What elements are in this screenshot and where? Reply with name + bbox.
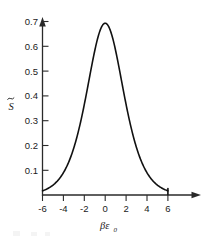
y-axis-ticks bbox=[43, 22, 49, 171]
y-tick-label-0.6: 0.6 bbox=[25, 41, 38, 52]
y-axis-title: S bbox=[7, 98, 14, 112]
y-axis-title-text: S bbox=[8, 101, 14, 112]
x-axis-title-subscript: 0 bbox=[114, 226, 118, 234]
figure-container: 0.7 0.6 0.5 0.4 0.3 0.2 0.1 S bbox=[0, 0, 219, 239]
y-axis-title-tilde-accent bbox=[7, 98, 14, 100]
entropy-curve bbox=[43, 23, 168, 191]
x-axis-title-text: βε bbox=[99, 220, 110, 231]
scan-artifact-3 bbox=[45, 232, 50, 236]
x-tick-label-2: 2 bbox=[123, 203, 128, 214]
x-tick-label-0: 0 bbox=[103, 203, 108, 214]
x-tick-label--4: -4 bbox=[59, 203, 67, 214]
scan-artifact-1 bbox=[13, 231, 20, 236]
y-tick-label-0.2: 0.2 bbox=[25, 140, 38, 151]
x-tick-label--6: -6 bbox=[38, 203, 46, 214]
data-curve-group bbox=[43, 23, 168, 194]
x-tick-label--2: -2 bbox=[80, 203, 88, 214]
y-tick-label-0.4: 0.4 bbox=[25, 90, 38, 101]
y-axis-group: 0.7 0.6 0.5 0.4 0.3 0.2 0.1 S bbox=[7, 16, 48, 196]
x-axis-title: βε 0 bbox=[99, 220, 118, 234]
x-axis-tick-labels: -6 -4 -2 0 2 4 6 bbox=[38, 203, 170, 214]
y-axis-tick-labels: 0.7 0.6 0.5 0.4 0.3 0.2 0.1 bbox=[25, 16, 38, 176]
x-axis-arrowhead bbox=[192, 192, 202, 199]
y-tick-label-0.1: 0.1 bbox=[25, 165, 38, 176]
x-axis-ticks bbox=[43, 195, 168, 201]
x-tick-label-4: 4 bbox=[144, 203, 149, 214]
x-tick-label-6: 6 bbox=[165, 203, 170, 214]
x-axis-group: -6 -4 -2 0 2 4 6 βε 0 bbox=[38, 192, 201, 234]
entropy-plot: 0.7 0.6 0.5 0.4 0.3 0.2 0.1 S bbox=[0, 0, 219, 239]
scan-artifact-2 bbox=[31, 232, 37, 236]
y-tick-label-0.7: 0.7 bbox=[25, 16, 38, 27]
y-tick-label-0.3: 0.3 bbox=[25, 115, 38, 126]
y-tick-label-0.5: 0.5 bbox=[25, 66, 38, 77]
